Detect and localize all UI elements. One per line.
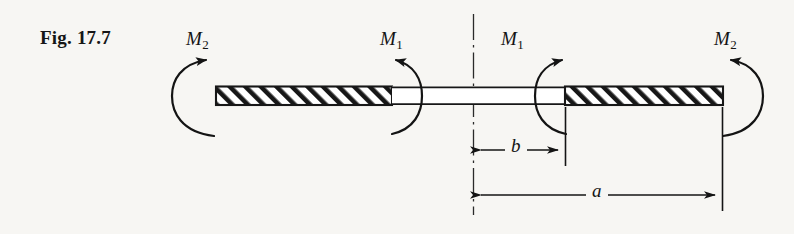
moment-symbol: M [186, 28, 202, 49]
moment-subscript: 1 [517, 37, 524, 52]
bar-segment-left-hatched [216, 87, 392, 106]
moment-symbol: M [501, 28, 517, 49]
moment-arrow-m2-left [172, 60, 214, 136]
moment-symbol: M [380, 28, 396, 49]
moment-symbol: M [714, 28, 730, 49]
bar-segment-centre-plain [391, 87, 566, 106]
moment-subscript: 2 [730, 37, 737, 52]
figure-caption: Fig. 17.7 [40, 27, 111, 49]
dimension-label-a: a [586, 180, 608, 202]
moment-label-m1-right: M1 [501, 28, 524, 53]
bar-segment-right-hatched [565, 87, 723, 106]
moment-label-m1-left: M1 [380, 28, 403, 53]
moment-subscript: 1 [396, 37, 403, 52]
shaft-bar [216, 87, 723, 106]
moment-label-m2-left: M2 [186, 28, 209, 53]
dimension-label-b: b [505, 135, 527, 157]
figure-container: Fig. 17.7 M2 M1 M1 M2 b a [0, 0, 794, 234]
moment-subscript: 2 [202, 37, 209, 52]
moment-arrow-m2-right [723, 60, 763, 136]
moment-label-m2-right: M2 [714, 28, 737, 53]
